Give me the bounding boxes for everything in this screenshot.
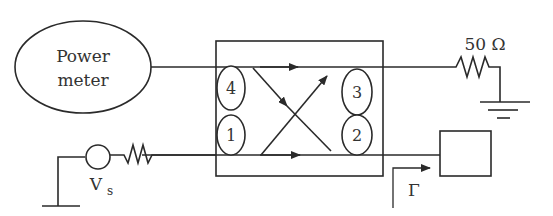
port-1: 1 (217, 115, 245, 155)
circuit-diagram: Power meter 4 1 3 2 50 Ω (0, 0, 553, 216)
port-4: 4 (217, 66, 245, 110)
port-2: 2 (342, 115, 372, 155)
termination-resistor: 50 Ω (452, 34, 506, 102)
reflection-arrow: Γ (393, 168, 430, 208)
port-3-label: 3 (352, 83, 362, 102)
coupling-arrow-down (253, 68, 287, 106)
source-label: V (89, 174, 103, 194)
source-subscript: s (107, 184, 113, 198)
voltage-source: V s (42, 145, 216, 206)
port-1-label: 1 (226, 126, 236, 145)
reflection-label: Γ (408, 180, 420, 200)
power-meter-label-line2: meter (57, 70, 109, 90)
port-2-label: 2 (352, 126, 362, 145)
power-meter: Power meter (15, 21, 151, 113)
termination-label: 50 Ω (464, 34, 505, 54)
coupling-line-down (287, 106, 331, 151)
port-3: 3 (342, 69, 372, 115)
power-meter-label-line1: Power (56, 46, 111, 66)
ground-icon (480, 102, 530, 118)
port-4-label: 4 (226, 79, 236, 98)
load-box (440, 131, 491, 176)
